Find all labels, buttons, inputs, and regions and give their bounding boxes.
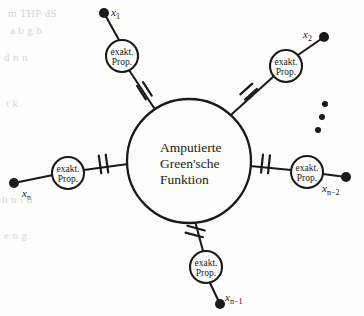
external-point-dot-xn2[interactable] bbox=[341, 172, 351, 182]
ellipsis-dots bbox=[315, 101, 328, 133]
leg-inner-xn bbox=[84, 164, 128, 170]
propagator-label-line1: exakt. bbox=[296, 163, 319, 173]
external-point-label-xn1: xn−1 bbox=[224, 291, 242, 306]
propagator-label-line2: Prop. bbox=[58, 174, 78, 184]
label-subscript: n bbox=[27, 193, 31, 202]
tick-slash-a bbox=[240, 84, 252, 95]
external-point-label-x1: x1 bbox=[110, 6, 120, 21]
leg-inner-x2 bbox=[232, 76, 274, 114]
amputation-tick-xn1 bbox=[186, 226, 205, 237]
tick-slash-b bbox=[186, 233, 203, 238]
external-point-label-xn: xn bbox=[21, 187, 31, 202]
propagator-label-line2: Prop. bbox=[112, 57, 132, 67]
propagator-label-line2: Prop. bbox=[196, 268, 216, 278]
propagator-label-line1: exakt. bbox=[195, 258, 218, 268]
propagator-node-x2[interactable]: exakt. Prop. bbox=[270, 50, 302, 82]
label-subscript: 1 bbox=[116, 12, 120, 21]
propagator-node-xn[interactable]: exakt. Prop. bbox=[52, 157, 84, 189]
propagator-node-xn2[interactable]: exakt. Prop. bbox=[291, 156, 323, 188]
label-subscript: n−1 bbox=[230, 297, 243, 306]
external-point-dot-x1[interactable] bbox=[99, 8, 109, 18]
propagator-label-line2: Prop. bbox=[276, 67, 296, 77]
external-point-label-xn2: xn−2 bbox=[321, 182, 339, 197]
leg-inner-xn2 bbox=[250, 166, 291, 170]
propagator-label-line1: exakt. bbox=[275, 57, 298, 67]
external-point-dot-xn1[interactable] bbox=[215, 299, 225, 309]
external-point-dot-xn[interactable] bbox=[9, 178, 19, 188]
tick-slash-a bbox=[99, 156, 102, 174]
label-subscript: n−2 bbox=[327, 188, 340, 197]
leg-outer-xn bbox=[14, 175, 53, 183]
amputation-tick-x2 bbox=[240, 84, 257, 100]
propagator-label-line2: Prop. bbox=[297, 173, 317, 183]
tick-slash-a bbox=[261, 155, 263, 173]
tick-slash-b bbox=[106, 155, 109, 173]
ellipsis-dot bbox=[322, 101, 328, 107]
diagram-canvas: Amputierte Green'sche Funktion exakt. Pr… bbox=[0, 0, 364, 316]
propagator-node-xn1[interactable]: exakt. Prop. bbox=[190, 251, 222, 283]
amputated-green-function-blob[interactable]: Amputierte Green'sche Funktion bbox=[127, 99, 251, 223]
propagator-label-line1: exakt. bbox=[57, 164, 80, 174]
blob-label-line3: Funktion bbox=[160, 172, 209, 187]
ellipsis-dot bbox=[315, 127, 321, 133]
external-point-dot-x2[interactable] bbox=[319, 32, 329, 42]
external-point-label-x2: x2 bbox=[302, 28, 312, 43]
blob-label-line1: Amputierte bbox=[160, 140, 221, 155]
amputation-tick-xn2 bbox=[261, 155, 270, 174]
leg-inner-x1 bbox=[129, 70, 158, 114]
label-subscript: 2 bbox=[308, 34, 312, 43]
figure-container: Amputierte Green'sche Funktion exakt. Pr… bbox=[0, 0, 364, 316]
amputation-tick-xn bbox=[99, 155, 108, 174]
tick-slash-b bbox=[268, 155, 270, 173]
blob-label-line2: Green'sche bbox=[160, 156, 219, 171]
ellipsis-dot bbox=[319, 114, 325, 120]
propagator-label-line1: exakt. bbox=[111, 47, 134, 57]
propagator-node-x1[interactable]: exakt. Prop. bbox=[106, 40, 138, 72]
